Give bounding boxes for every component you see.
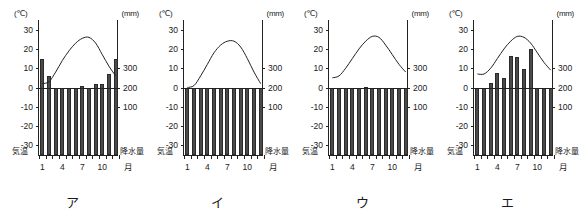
month-axis-tick-label: 1 — [475, 163, 480, 172]
month-axis-tick-label: 7 — [370, 163, 375, 172]
temperature-line — [42, 37, 115, 84]
climate-chart-panel: (℃)(mm)3020100-10-20-3030020010014710月気温… — [290, 0, 435, 213]
plot-frame: 3020100-10-20-3030020010014710月 — [38, 20, 118, 155]
month-axis-tick — [191, 155, 192, 159]
temperature-axis-tick-label: -20 — [166, 122, 178, 131]
month-axis-label: 月 — [559, 163, 568, 172]
month-axis-tick — [402, 155, 403, 159]
temperature-curve — [329, 20, 409, 155]
chart-option-label: ウ — [290, 196, 435, 209]
temperature-unit-label: (℃) — [14, 10, 27, 18]
temperature-axis-tick-label: 20 — [24, 45, 33, 54]
plot-frame: 3020100-10-20-3030020010014710月 — [183, 20, 263, 155]
month-axis-tick — [184, 155, 185, 159]
month-axis-tick — [257, 155, 258, 159]
precipitation-axis-caption: 降水量 — [120, 148, 144, 156]
chart-option-label: ア — [0, 196, 145, 209]
month-axis-tick — [211, 155, 212, 159]
month-axis-tick-label: 10 — [533, 163, 542, 172]
month-axis-tick-label: 7 — [80, 163, 85, 172]
month-axis-tick — [547, 155, 548, 159]
precipitation-axis-caption: 降水量 — [555, 148, 579, 156]
month-axis-tick — [106, 155, 107, 159]
precipitation-unit-label: (mm) — [122, 10, 139, 18]
precipitation-axis-caption: 降水量 — [410, 148, 434, 156]
temperature-axis-tick-label: -20 — [456, 122, 468, 131]
temperature-line — [477, 36, 550, 74]
temperature-axis-tick-label: 20 — [314, 45, 323, 54]
month-axis-tick — [507, 155, 508, 159]
month-axis-tick-label: 4 — [350, 163, 355, 172]
temperature-axis-caption: 気温 — [12, 148, 28, 156]
precipitation-axis-tick-label: 300 — [413, 64, 427, 73]
month-axis-tick — [474, 155, 475, 159]
chart-option-label: イ — [145, 196, 290, 209]
month-axis-tick — [204, 155, 205, 159]
month-axis-tick — [329, 155, 330, 159]
temperature-unit-label: (℃) — [304, 10, 317, 18]
temperature-axis-tick-label: 10 — [24, 64, 33, 73]
temperature-axis-tick-label: -20 — [21, 122, 33, 131]
month-axis-tick — [487, 155, 488, 159]
month-axis-tick — [494, 155, 495, 159]
precipitation-axis-tick-label: 200 — [413, 84, 427, 93]
temperature-axis-tick-label: -10 — [166, 103, 178, 112]
climate-chart-panel: (℃)(mm)3020100-10-20-3030020010014710月気温… — [435, 0, 580, 213]
month-axis-tick — [336, 155, 337, 159]
month-axis-tick — [72, 155, 73, 159]
precipitation-unit-label: (mm) — [412, 10, 429, 18]
month-axis-tick — [112, 155, 113, 159]
precipitation-unit-label: (mm) — [557, 10, 574, 18]
temperature-axis-tick-label: 20 — [169, 45, 178, 54]
month-axis-tick — [342, 155, 343, 159]
month-axis-tick — [66, 155, 67, 159]
month-axis-tick — [244, 155, 245, 159]
climate-chart-panel: (℃)(mm)3020100-10-20-3030020010014710月気温… — [145, 0, 290, 213]
temperature-line — [187, 41, 260, 88]
chart-plot-area: (℃)(mm)3020100-10-20-3030020010014710月気温… — [435, 0, 580, 175]
month-axis-tick — [224, 155, 225, 159]
temperature-unit-label: (℃) — [449, 10, 462, 18]
month-axis-tick — [79, 155, 80, 159]
temperature-axis-tick-label: 30 — [459, 26, 468, 35]
month-axis-tick — [362, 155, 363, 159]
temperature-unit-label: (℃) — [159, 10, 172, 18]
precipitation-axis-tick-label: 200 — [268, 84, 282, 93]
month-axis-tick — [534, 155, 535, 159]
month-axis-tick — [59, 155, 60, 159]
chart-option-label: エ — [435, 196, 580, 209]
temperature-axis-tick-label: 10 — [459, 64, 468, 73]
precipitation-unit-label: (mm) — [267, 10, 284, 18]
month-axis-tick-label: 4 — [205, 163, 210, 172]
precipitation-axis-tick-label: 100 — [413, 103, 427, 112]
month-axis-tick — [382, 155, 383, 159]
temperature-curve — [474, 20, 554, 155]
month-axis-tick — [521, 155, 522, 159]
month-axis-tick — [396, 155, 397, 159]
precipitation-axis-tick-label: 300 — [268, 64, 282, 73]
temperature-axis-tick-label: 10 — [169, 64, 178, 73]
month-axis-tick — [514, 155, 515, 159]
month-axis-tick — [92, 155, 93, 159]
temperature-axis-tick-label: -10 — [21, 103, 33, 112]
temperature-axis-tick-label: 20 — [459, 45, 468, 54]
month-axis-tick — [369, 155, 370, 159]
chart-plot-area: (℃)(mm)3020100-10-20-3030020010014710月気温… — [0, 0, 145, 175]
chart-plot-area: (℃)(mm)3020100-10-20-3030020010014710月気温… — [145, 0, 290, 175]
month-axis-tick — [349, 155, 350, 159]
precipitation-axis-caption: 降水量 — [265, 148, 289, 156]
climate-graph-figure: (℃)(mm)3020100-10-20-3030020010014710月気温… — [0, 0, 580, 213]
precipitation-axis-tick-label: 200 — [558, 84, 572, 93]
precipitation-axis-tick-label: 300 — [558, 64, 572, 73]
month-axis-label: 月 — [124, 163, 133, 172]
month-axis-tick — [231, 155, 232, 159]
month-axis-tick — [197, 155, 198, 159]
month-axis-tick — [501, 155, 502, 159]
precipitation-axis-tick-label: 100 — [123, 103, 137, 112]
month-axis-tick-label: 1 — [330, 163, 335, 172]
temperature-axis-tick-label: 30 — [314, 26, 323, 35]
plot-frame: 3020100-10-20-3030020010014710月 — [328, 20, 408, 155]
month-axis-label: 月 — [269, 163, 278, 172]
plot-frame: 3020100-10-20-3030020010014710月 — [473, 20, 553, 155]
month-axis-tick — [527, 155, 528, 159]
